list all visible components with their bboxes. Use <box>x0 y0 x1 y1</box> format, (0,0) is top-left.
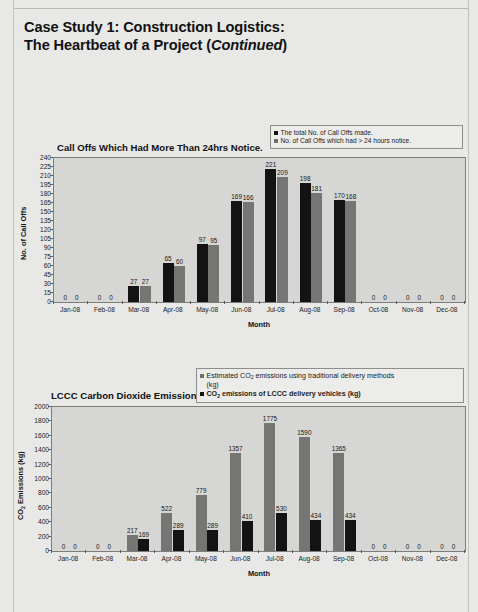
bar <box>161 513 172 551</box>
chart1-title: Call Offs Which Had More Than 24hrs Noti… <box>57 142 263 153</box>
bar <box>310 520 321 551</box>
y-tick-label: 195 <box>31 181 51 188</box>
x-tick-label: May-08 <box>196 306 218 313</box>
x-tick-mark <box>293 301 294 304</box>
chart1-x-axis-title: Month <box>248 320 270 329</box>
bar <box>345 201 356 302</box>
bar <box>207 530 218 551</box>
chart1-legend: The total No. of Call Offs made. No. of … <box>270 125 463 149</box>
x-tick-label: Feb-08 <box>94 306 115 313</box>
y-tick-label: 200 <box>29 532 49 539</box>
bar <box>345 520 356 551</box>
chart2-x-axis-title: Month <box>248 569 270 578</box>
bar <box>173 530 184 551</box>
bar-value-label: 289 <box>173 522 184 529</box>
bar-zero-label: 0 <box>417 543 421 550</box>
bar <box>300 183 311 302</box>
x-tick-label: Oct-08 <box>368 555 388 562</box>
y-tick-label: 600 <box>29 503 49 510</box>
bar <box>174 266 185 302</box>
chart2-legend: Estimated CO2 emissions using traditiona… <box>196 368 464 403</box>
page-top-rule <box>13 8 469 9</box>
bar <box>128 286 139 302</box>
legend-item-lccc-co2: CO2 emissions of LCCC delivery vehicles … <box>200 390 459 399</box>
x-tick-label: Nov-08 <box>402 555 423 562</box>
x-tick-label: Mar-08 <box>128 306 149 313</box>
bar-zero-label: 0 <box>440 543 444 550</box>
bar-value-label: 1590 <box>297 429 311 436</box>
x-tick-label: Jul-08 <box>266 555 284 562</box>
x-tick-mark <box>292 550 293 553</box>
bar-zero-label: 0 <box>64 294 68 301</box>
bar <box>127 535 138 551</box>
legend-swatch-black-icon <box>274 131 278 135</box>
bar-zero-label: 0 <box>108 543 112 550</box>
y-tick-label: 1400 <box>29 446 49 453</box>
legend-swatch-black-icon <box>200 392 204 396</box>
x-tick-label: Aug-08 <box>298 555 319 562</box>
x-tick-label: Jan-08 <box>58 555 78 562</box>
y-tick-label: 1600 <box>29 431 49 438</box>
heading-line-2-suffix: ) <box>282 37 287 53</box>
x-tick-label: Dec-08 <box>436 555 457 562</box>
chart2-y-axis-title: CO2 Emissions (kg) <box>16 451 25 520</box>
y-tick-label: 135 <box>31 217 51 224</box>
bar <box>140 286 151 302</box>
bar-zero-label: 0 <box>383 543 387 550</box>
chart-co2-emissions: LCCC Carbon Dioxide Emissions Estimated … <box>13 360 468 600</box>
x-tick-label: Jul-08 <box>267 306 285 313</box>
bar-zero-label: 0 <box>96 543 100 550</box>
x-tick-mark <box>361 550 362 553</box>
legend-label-total-call-offs: The total No. of Call Offs made. <box>281 129 459 137</box>
bar <box>163 263 174 302</box>
bar <box>264 423 275 551</box>
bar <box>333 453 344 551</box>
bar <box>242 521 253 551</box>
bar-value-label: 209 <box>277 169 288 176</box>
bar-value-label: 530 <box>276 505 287 512</box>
chart2-title: LCCC Carbon Dioxide Emissions <box>51 390 202 401</box>
x-tick-label: Jan-08 <box>60 306 80 313</box>
bar-zero-label: 0 <box>73 543 77 550</box>
bar-zero-label: 0 <box>406 294 410 301</box>
bar <box>208 245 219 302</box>
document-page: Case Study 1: Construction Logistics: Th… <box>0 0 478 612</box>
y-tick-label: 240 <box>31 154 51 161</box>
x-tick-mark <box>53 301 54 304</box>
x-tick-mark <box>51 550 52 553</box>
x-tick-label: Jun-08 <box>231 306 251 313</box>
legend-item-estimated-co2: Estimated CO2 emissions using traditiona… <box>200 372 459 390</box>
y-tick-label: 2000 <box>29 403 49 410</box>
bar-zero-label: 0 <box>452 543 456 550</box>
bar-value-label: 779 <box>196 487 207 494</box>
bar <box>230 453 241 551</box>
x-tick-mark <box>258 550 259 553</box>
y-tick-label: 225 <box>31 163 51 170</box>
bar-value-label: 169 <box>231 193 242 200</box>
bar-value-label: 1365 <box>332 445 346 452</box>
x-tick-mark <box>395 550 396 553</box>
x-tick-label: Oct-08 <box>368 306 388 313</box>
y-tick-label: 0 <box>29 547 49 554</box>
bar-value-label: 289 <box>207 522 218 529</box>
x-tick-mark <box>464 550 465 553</box>
x-tick-label: Nov-08 <box>402 306 423 313</box>
y-tick-label: 15 <box>31 289 51 296</box>
legend-label-lccc-co2: CO2 emissions of LCCC delivery vehicles … <box>207 390 460 399</box>
y-tick-label: 1800 <box>29 417 49 424</box>
bar-value-label: 65 <box>165 255 172 262</box>
x-tick-label: Dec-08 <box>436 306 457 313</box>
y-tick-label: 150 <box>31 208 51 215</box>
x-tick-label: Jun-08 <box>230 555 250 562</box>
y-tick-label: 90 <box>31 244 51 251</box>
legend-item-24hr-notice: No. of Call Offs which had > 24 hours no… <box>274 137 458 145</box>
bar <box>196 495 207 551</box>
bar-zero-label: 0 <box>383 294 387 301</box>
y-tick-label: 165 <box>31 199 51 206</box>
x-tick-label: Apr-08 <box>163 306 183 313</box>
x-tick-mark <box>430 301 431 304</box>
x-tick-label: May-08 <box>195 555 217 562</box>
bar-value-label: 27 <box>142 278 149 285</box>
bar <box>276 513 287 551</box>
legend-swatch-gray-icon <box>274 139 278 143</box>
